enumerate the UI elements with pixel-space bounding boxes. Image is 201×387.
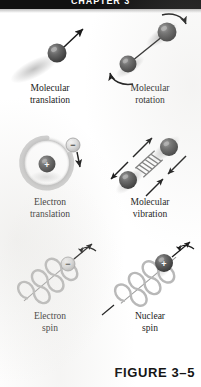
running-head-bar: CHAPTER 3 — [0, 0, 201, 9]
nuclear-spin-caption: Nuclear spin — [100, 311, 200, 334]
two-spheres-spring-with-arrows-icon — [100, 125, 200, 203]
caption-line-1: Electron — [34, 197, 66, 207]
nucleus-orbit-with-electron-arrow-icon: + − — [0, 125, 100, 203]
nucleus-helix-spin-arrow-icon: + — [100, 239, 200, 317]
positive-charge-symbol: + — [161, 259, 166, 269]
positive-charge-symbol: + — [44, 160, 49, 170]
figure-3-5: Molecular translation Molecular rotation — [0, 11, 201, 361]
panel-electron-spin: − Electron spin — [0, 239, 100, 353]
caption-line-1: Electron — [34, 311, 66, 321]
caption-line-1: Molecular — [30, 83, 69, 93]
caption-line-2: spin — [42, 323, 58, 333]
negative-charge-symbol: − — [65, 259, 70, 269]
two-spheres-bond-with-curved-arrows-icon — [100, 11, 200, 89]
caption-line-2: translation — [30, 209, 70, 219]
nuclear-spin-illustration: + — [100, 239, 200, 317]
caption-line-1: Molecular — [130, 197, 169, 207]
figure-number-label: FIGURE 3–5 — [115, 365, 195, 380]
electron-translation-caption: Electron translation — [0, 197, 100, 220]
molecular-rotation-illustration — [100, 11, 200, 89]
molecular-vibration-illustration — [100, 125, 200, 203]
panel-molecular-vibration: Molecular vibration — [100, 125, 200, 239]
electron-helix-spin-arrow-icon: − — [0, 239, 100, 317]
negative-charge-symbol: − — [70, 140, 75, 150]
caption-line-2: spin — [142, 323, 158, 333]
caption-line-2: vibration — [133, 209, 167, 219]
molecular-rotation-caption: Molecular rotation — [100, 83, 200, 106]
electron-spin-caption: Electron spin — [0, 311, 100, 334]
panel-molecular-translation: Molecular translation — [0, 11, 100, 125]
molecular-translation-illustration — [0, 11, 100, 89]
caption-line-1: Molecular — [130, 83, 169, 93]
sphere-with-straight-arrow-icon — [0, 11, 100, 89]
panel-molecular-rotation: Molecular rotation — [100, 11, 200, 125]
molecular-translation-caption: Molecular translation — [0, 83, 100, 106]
panel-nuclear-spin: + Nuclear spin — [100, 239, 200, 353]
caption-line-1: Nuclear — [135, 311, 165, 321]
caption-line-2: translation — [30, 95, 70, 105]
panel-electron-translation: + − Electron translation — [0, 125, 100, 239]
molecular-vibration-caption: Molecular vibration — [100, 197, 200, 220]
electron-spin-illustration: − — [0, 239, 100, 317]
running-head-text: CHAPTER 3 — [0, 0, 201, 6]
caption-line-2: rotation — [135, 95, 165, 105]
electron-translation-illustration: + − — [0, 125, 100, 203]
